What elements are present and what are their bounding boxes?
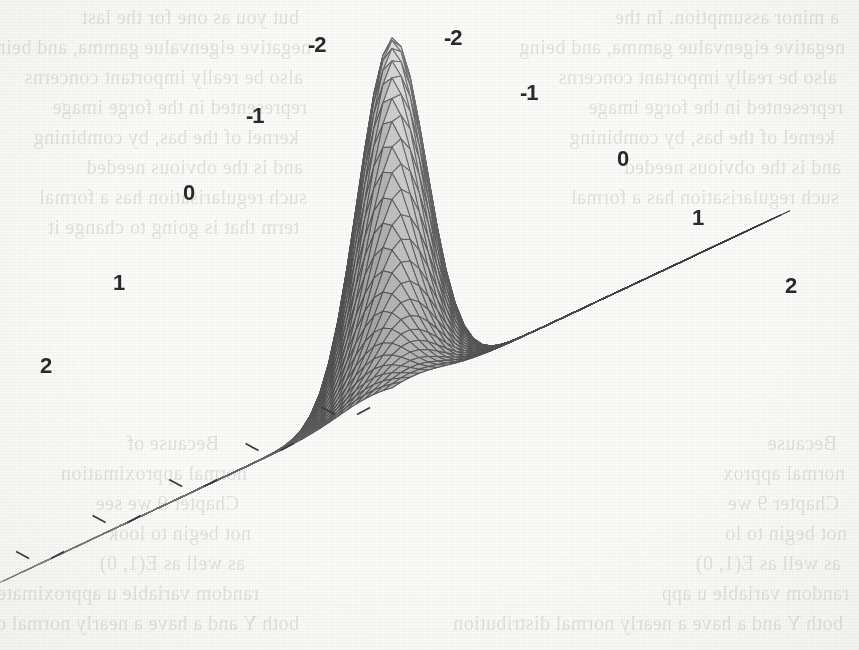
x-axis-tick-label: 0 [183, 182, 195, 204]
surface-plot [0, 0, 859, 650]
y-axis-tick-label: 2 [785, 275, 797, 297]
x-axis-tick-label: -1 [246, 105, 264, 127]
surface-mesh [0, 38, 790, 585]
y-axis-tick-label: 1 [692, 207, 704, 229]
y-axis-tick-label: -2 [444, 27, 462, 49]
x-axis-tick-label: 2 [40, 355, 52, 377]
scanned-figure-page: but you as one for the last negative eig… [0, 0, 859, 650]
x-axis-tick-label: 1 [113, 272, 125, 294]
y-axis-tick-label: -1 [520, 82, 538, 104]
y-axis-tick-label: 0 [617, 148, 629, 170]
x-axis-tick-label: -2 [308, 34, 326, 56]
